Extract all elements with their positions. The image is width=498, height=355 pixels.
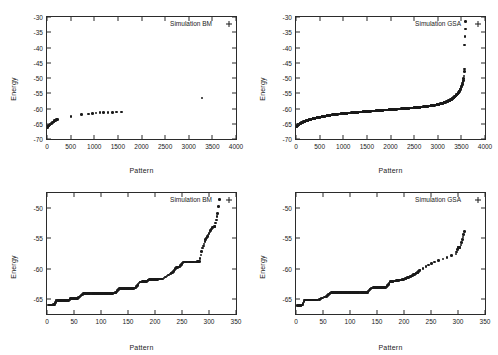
x-tick-mark — [70, 135, 71, 139]
x-tick-mark — [485, 135, 486, 139]
x-tick-mark — [236, 310, 237, 314]
data-point — [201, 247, 204, 250]
data-point — [102, 111, 105, 114]
x-tick-mark — [182, 310, 183, 314]
y-tick-mark — [47, 108, 51, 109]
x-tick-mark — [461, 135, 462, 139]
x-tick-mark — [431, 310, 432, 314]
x-tick-mark — [141, 17, 142, 21]
x-tick-label: 50 — [70, 318, 77, 325]
x-tick-mark — [458, 310, 459, 314]
y-tick-label: -35 — [283, 29, 292, 36]
x-tick-label: 0 — [45, 318, 49, 325]
data-point — [462, 77, 465, 80]
x-tick-label: 200 — [399, 318, 410, 325]
x-tick-mark — [296, 135, 297, 139]
data-point — [214, 225, 217, 228]
y-tick-label: -65 — [283, 120, 292, 127]
y-tick-label: -35 — [34, 29, 43, 36]
x-tick-label: 350 — [231, 318, 242, 325]
data-point — [464, 35, 467, 38]
x-tick-mark — [390, 17, 391, 21]
y-tick-label: -45 — [283, 59, 292, 66]
data-point — [56, 118, 59, 121]
y-tick-mark — [481, 78, 485, 79]
x-tick-label: 250 — [177, 318, 188, 325]
x-tick-mark — [209, 310, 210, 314]
y-axis-label: Energy — [10, 77, 17, 100]
data-point — [463, 230, 466, 233]
x-tick-label: 2500 — [158, 143, 172, 150]
x-tick-label: 1500 — [111, 143, 125, 150]
y-tick-label: -50 — [283, 75, 292, 82]
x-tick-label: 1500 — [360, 143, 374, 150]
x-tick-mark — [117, 135, 118, 139]
y-tick-mark — [232, 268, 236, 269]
x-tick-mark — [155, 310, 156, 314]
x-tick-mark — [101, 310, 102, 314]
y-tick-mark — [232, 238, 236, 239]
y-tick-mark — [232, 298, 236, 299]
x-tick-label: 3000 — [431, 143, 445, 150]
y-tick-mark — [296, 17, 300, 18]
data-points-top-right — [296, 17, 485, 139]
x-tick-label: 0 — [45, 143, 49, 150]
y-tick-label: -65 — [34, 120, 43, 127]
y-tick-mark — [47, 238, 51, 239]
x-tick-mark — [212, 17, 213, 21]
y-tick-mark — [47, 78, 51, 79]
data-point — [201, 97, 204, 100]
x-tick-mark — [296, 193, 297, 197]
x-tick-mark — [236, 193, 237, 197]
x-tick-label: 100 — [96, 318, 107, 325]
y-tick-mark — [47, 298, 51, 299]
data-point — [215, 219, 218, 222]
data-point — [120, 111, 123, 114]
x-tick-mark — [319, 17, 320, 21]
x-tick-label: 3000 — [182, 143, 196, 150]
x-tick-label: 2000 — [383, 143, 397, 150]
x-tick-mark — [165, 135, 166, 139]
data-point — [115, 111, 118, 114]
data-point — [460, 244, 463, 247]
y-tick-label: -45 — [34, 59, 43, 66]
x-tick-mark — [128, 193, 129, 197]
x-tick-mark — [404, 193, 405, 197]
y-tick-label: -40 — [283, 44, 292, 51]
y-tick-label: -60 — [283, 265, 292, 272]
x-axis-label: Pattern — [295, 344, 486, 351]
x-tick-label: 250 — [426, 318, 437, 325]
y-tick-mark — [232, 93, 236, 94]
y-tick-label: -70 — [34, 136, 43, 143]
x-tick-mark — [212, 135, 213, 139]
data-point — [464, 28, 467, 31]
data-points-top-left — [47, 17, 236, 139]
x-tick-mark — [390, 135, 391, 139]
x-tick-mark — [296, 17, 297, 21]
x-tick-mark — [47, 135, 48, 139]
y-tick-label: -30 — [283, 14, 292, 21]
x-tick-mark — [343, 135, 344, 139]
y-tick-label: -55 — [283, 235, 292, 242]
data-point — [216, 215, 219, 218]
x-tick-mark — [343, 17, 344, 21]
x-tick-mark — [485, 310, 486, 314]
y-tick-mark — [47, 17, 51, 18]
panel-top-right: Energy Pattern Simulation GSA -70-65-60-… — [249, 0, 498, 178]
x-tick-label: 500 — [65, 143, 76, 150]
y-tick-label: -55 — [34, 90, 43, 97]
y-tick-mark — [232, 123, 236, 124]
data-point — [216, 212, 219, 215]
y-tick-label: -65 — [34, 295, 43, 302]
data-point — [87, 113, 90, 116]
y-tick-mark — [481, 93, 485, 94]
data-point — [463, 70, 466, 73]
y-tick-mark — [481, 62, 485, 63]
x-tick-mark — [350, 193, 351, 197]
y-axis-label: Energy — [259, 77, 266, 100]
plot-area-top-right: Simulation GSA -70-65-60-55-50-45-40-35-… — [295, 16, 486, 140]
x-tick-label: 200 — [150, 318, 161, 325]
y-tick-mark — [47, 32, 51, 33]
x-tick-mark — [47, 310, 48, 314]
data-point — [80, 113, 83, 116]
